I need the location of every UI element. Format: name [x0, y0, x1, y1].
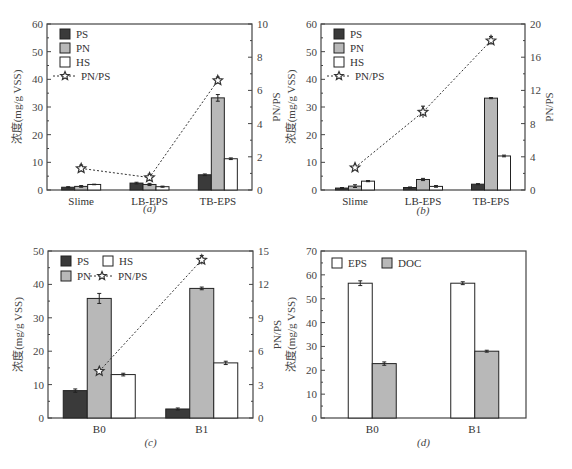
x-tick-label: TB-EPS: [473, 195, 510, 207]
y2-axis-label: PN/PS: [270, 92, 282, 121]
chart-panel-b: 0102030405060浓度(mg/g VSS)048121620PN/PSS…: [284, 18, 555, 217]
y-axis-right: 048121620: [521, 18, 542, 196]
y-tick-label: 50: [33, 245, 45, 257]
legend-swatch: [60, 57, 70, 67]
bar-ps: [198, 175, 211, 190]
legend: PSPNHSPN/PS: [53, 28, 110, 82]
star-marker-icon: [197, 255, 207, 264]
bar-eps: [451, 283, 475, 418]
bar-hs: [214, 363, 238, 418]
y-tick-label: 50: [306, 293, 318, 305]
x-tick-label: B0: [366, 423, 379, 435]
legend-label: PS: [77, 255, 89, 267]
legend-label: DOC: [398, 257, 421, 269]
y2-axis-label: PN/PS: [271, 320, 283, 349]
legend-label: PN/PS: [118, 270, 147, 282]
y-tick-label: 60: [306, 18, 318, 30]
x-tick-label: TB-EPS: [199, 195, 236, 207]
y-tick-label: 40: [33, 278, 45, 290]
bar-hs: [88, 184, 101, 190]
legend-swatch: [60, 43, 70, 53]
bar-pn: [211, 98, 224, 190]
y-tick-label: 0: [39, 412, 45, 424]
legend-label: PS: [76, 28, 88, 40]
y-tick-label: 40: [306, 73, 318, 85]
y2-tick-label: 6: [257, 84, 263, 96]
y2-tick-label: 0: [258, 412, 264, 424]
legend-label: HS: [350, 56, 364, 68]
x-tick-label: B1: [468, 423, 481, 435]
y2-axis-label: PN/PS: [543, 92, 555, 121]
chart-panel-a: 0102030405060浓度(mg/g VSS)0246810PN/PSSli…: [10, 18, 282, 215]
y-tick-label: 20: [306, 129, 318, 141]
y2-tick-label: 9: [258, 312, 264, 324]
y-tick-label: 50: [306, 46, 318, 58]
y-axis-label: 浓度(mg/g VSS): [11, 297, 25, 372]
y-tick-label: 30: [32, 101, 44, 113]
bar-pn: [87, 298, 111, 418]
star-marker-icon: [61, 72, 70, 80]
legend: EPSDOC: [332, 257, 421, 269]
y2-tick-label: 8: [257, 51, 263, 63]
y-tick-label: 50: [32, 46, 44, 58]
y2-tick-label: 0: [257, 184, 263, 196]
y2-tick-label: 2: [257, 151, 263, 163]
chart-panel-d: 010203040506070浓度(mg/g VSS)B0B1EPSDOC(d): [284, 245, 526, 449]
star-marker-icon: [335, 72, 344, 80]
legend-swatch: [334, 29, 344, 39]
y2-tick-label: 0: [530, 184, 536, 196]
legend-swatch: [61, 271, 71, 281]
legend-label: EPS: [348, 257, 367, 269]
y-axis-left: 0102030405060: [32, 18, 51, 196]
y-tick-label: 20: [306, 364, 318, 376]
y-tick-label: 30: [306, 101, 318, 113]
y-tick-label: 0: [312, 412, 318, 424]
bar-doc: [372, 364, 396, 418]
legend-swatch: [334, 43, 344, 53]
y-tick-label: 0: [38, 184, 44, 196]
star-marker-icon: [213, 75, 223, 84]
panel-caption: (d): [417, 436, 430, 449]
panel-caption: (a): [143, 202, 156, 215]
figure: 0102030405060浓度(mg/g VSS)0246810PN/PSSli…: [0, 0, 572, 469]
bar-hs: [111, 375, 135, 418]
star-marker-icon: [145, 173, 155, 182]
y2-tick-label: 16: [530, 51, 542, 63]
bar-ps: [63, 391, 87, 418]
y-tick-label: 10: [306, 156, 318, 168]
y-tick-label: 10: [32, 156, 44, 168]
legend-swatch: [103, 256, 113, 266]
legend-label: PS: [350, 28, 362, 40]
y-axis-left: 0102030405060: [306, 18, 325, 196]
y2-tick-label: 3: [258, 379, 264, 391]
y-tick-label: 60: [32, 18, 44, 30]
star-marker-icon: [350, 163, 360, 172]
y2-tick-label: 15: [258, 245, 270, 257]
y-tick-label: 0: [312, 184, 318, 196]
legend-label: PN: [350, 42, 364, 54]
x-tick-label: B1: [195, 423, 208, 435]
y-tick-label: 40: [32, 73, 44, 85]
line-pn-ps: [350, 36, 496, 172]
star-marker-icon: [486, 36, 496, 45]
x-tick-label: B0: [93, 423, 106, 435]
star-marker-icon: [76, 163, 86, 172]
x-tick-label: Slime: [68, 195, 94, 207]
legend-swatch: [61, 256, 71, 266]
legend-swatch: [60, 29, 70, 39]
panel-caption: (b): [417, 204, 430, 217]
y-tick-label: 20: [32, 129, 44, 141]
panel-caption: (c): [144, 436, 157, 449]
bar-pn: [190, 288, 214, 418]
y2-tick-label: 6: [258, 345, 264, 357]
y-tick-label: 30: [33, 312, 45, 324]
star-marker-icon: [98, 272, 107, 280]
legend-label: PN: [76, 42, 90, 54]
y-axis-left: 010203040506070: [306, 245, 325, 424]
legend-swatch: [382, 258, 392, 268]
bars: [348, 281, 499, 418]
y2-tick-label: 20: [530, 18, 542, 30]
y-tick-label: 70: [306, 245, 318, 257]
y2-tick-label: 8: [530, 118, 536, 130]
legend-label: PN: [77, 270, 91, 282]
